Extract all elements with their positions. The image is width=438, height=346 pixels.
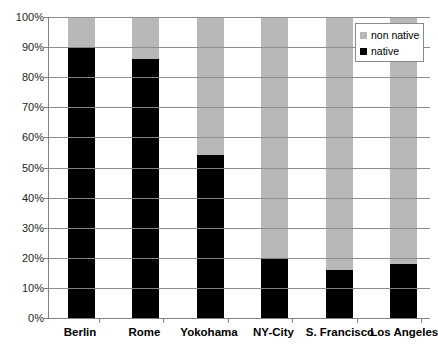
x-axis-tick-label: Yokohama bbox=[177, 326, 242, 339]
bar-group bbox=[261, 17, 288, 318]
legend-swatch-native bbox=[360, 48, 367, 55]
y-axis-tick-label: 80% bbox=[4, 72, 44, 83]
bar-segment-native bbox=[326, 270, 353, 318]
y-axis-tick-label: 90% bbox=[4, 42, 44, 53]
bar-group bbox=[132, 17, 159, 318]
y-axis-tick-label: 30% bbox=[4, 223, 44, 234]
y-axis-tick-label: 0% bbox=[4, 313, 44, 324]
bar-segment-non-native bbox=[68, 17, 95, 47]
legend-item-native: native bbox=[360, 43, 419, 59]
bar-segment-non-native bbox=[197, 17, 224, 155]
x-axis-tick-mark bbox=[292, 318, 293, 323]
bar-segment-non-native bbox=[326, 17, 353, 270]
bars-layer bbox=[49, 17, 430, 318]
bar-segment-non-native bbox=[132, 17, 159, 59]
bar-segment-native bbox=[132, 59, 159, 318]
legend-item-non-native: non native bbox=[360, 27, 419, 43]
y-axis-tick-label: 70% bbox=[4, 102, 44, 113]
x-axis-tick-label: NY-City bbox=[241, 326, 306, 339]
bar-segment-non-native bbox=[261, 17, 288, 258]
x-axis-tick-mark bbox=[357, 318, 358, 323]
x-axis-tick-mark bbox=[228, 318, 229, 323]
legend-label-native: native bbox=[371, 46, 399, 57]
bar-segment-native bbox=[261, 258, 288, 318]
x-axis-tick-mark bbox=[163, 318, 164, 323]
plot-inner bbox=[49, 17, 430, 318]
y-axis-tick-label: 40% bbox=[4, 193, 44, 204]
y-axis-tick-label: 100% bbox=[4, 12, 44, 23]
bar-segment-native bbox=[390, 264, 417, 318]
legend-label-non-native: non native bbox=[371, 30, 419, 41]
bar-group bbox=[390, 17, 417, 318]
x-axis-tick-label: S. Francisco bbox=[306, 326, 371, 339]
x-axis-tick-label: Berlin bbox=[48, 326, 113, 339]
x-axis-tick-label: Rome bbox=[112, 326, 177, 339]
y-axis-tick-label: 50% bbox=[4, 163, 44, 174]
bar-segment-native bbox=[68, 47, 95, 318]
bar-segment-native bbox=[197, 155, 224, 318]
bar-group bbox=[68, 17, 95, 318]
plot-area bbox=[48, 17, 430, 319]
bar-group bbox=[326, 17, 353, 318]
x-axis-tick-mark bbox=[421, 318, 422, 323]
stacked-bar-chart: 100%90%80%70%60%50%40%30%20%10%0% Berlin… bbox=[0, 0, 438, 346]
bar-group bbox=[197, 17, 224, 318]
chart-legend: non native native bbox=[355, 23, 424, 62]
y-axis-tick-label: 10% bbox=[4, 283, 44, 294]
x-axis-tick-label: Los Angeles bbox=[370, 326, 435, 339]
y-axis-tick-label: 20% bbox=[4, 253, 44, 264]
x-axis-tick-mark bbox=[99, 318, 100, 323]
y-axis-tick-label: 60% bbox=[4, 132, 44, 143]
legend-swatch-non-native bbox=[360, 32, 367, 39]
